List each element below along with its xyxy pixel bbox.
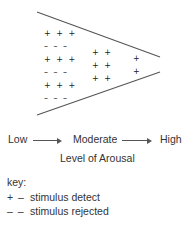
low-row-4: – – –: [44, 69, 69, 77]
key-label: stimulus detect: [30, 191, 100, 203]
key-item-detect: + –stimulus detect: [7, 191, 100, 203]
high-row-2: +: [133, 68, 141, 76]
key-symbol: + –: [7, 191, 30, 203]
arrow-right-icon: [33, 140, 59, 141]
key-title: key:: [7, 176, 26, 188]
moderate-row-2: + +: [92, 62, 112, 70]
moderate-row-1: + +: [92, 49, 112, 57]
arrow-right-icon: [122, 140, 149, 141]
low-row-6: – – –: [44, 95, 69, 103]
low-row-1: + + +: [44, 30, 77, 38]
key-item-rejected: – –stimulus rejected: [7, 205, 109, 217]
high-row-1: +: [133, 55, 141, 63]
key-symbol: – –: [7, 205, 30, 217]
axis-title: Level of Arousal: [60, 152, 135, 164]
axis-low-label: Low: [8, 133, 27, 145]
moderate-row-3: + +: [92, 75, 112, 83]
axis-moderate-label: Moderate: [73, 133, 117, 145]
low-row-3: + + +: [44, 56, 77, 64]
low-row-5: + + +: [44, 82, 77, 90]
key-label: stimulus rejected: [30, 205, 109, 217]
axis-high-label: High: [160, 133, 182, 145]
low-row-2: – – –: [44, 43, 69, 51]
